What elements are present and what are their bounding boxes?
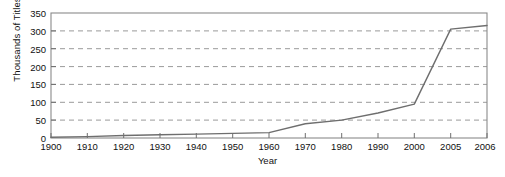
x-tick-label: 2005: [440, 141, 461, 152]
gridlines: [51, 31, 487, 120]
plot-frame: [51, 13, 487, 138]
x-tick-label: 1940: [186, 141, 207, 152]
x-tick-label: 1920: [113, 141, 134, 152]
x-tick-label: 1960: [258, 141, 279, 152]
x-axis-title-text: Year: [258, 155, 277, 166]
x-tick-label: 1950: [222, 141, 243, 152]
y-axis-ticks: [51, 31, 56, 120]
x-tick-label: 2006: [474, 141, 495, 152]
x-tick-label: 1970: [295, 141, 316, 152]
x-tick-label: 1900: [40, 141, 61, 152]
x-tick-label: 1910: [77, 141, 98, 152]
x-tick-label: 1930: [149, 141, 170, 152]
x-tick-label: 1990: [367, 141, 388, 152]
x-axis-title: Year: [0, 155, 505, 166]
x-tick-label: 1980: [331, 141, 352, 152]
chart-figure: Thousands of Titles 350 300 250 200 150 …: [0, 0, 505, 177]
x-tick-label: 2000: [404, 141, 425, 152]
